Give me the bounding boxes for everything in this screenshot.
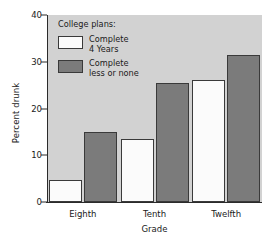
x-axis-title: Grade bbox=[47, 224, 262, 234]
legend-item: Complete4 Years bbox=[58, 35, 139, 54]
plot-area: 010203040 EighthTenthTwelfth College pla… bbox=[47, 15, 262, 202]
bar-chart: Percent drunk Grade 010203040 EighthTent… bbox=[0, 0, 268, 239]
bar bbox=[156, 83, 189, 202]
legend-title: College plans: bbox=[58, 20, 139, 29]
y-tick-label: 20 bbox=[31, 104, 47, 114]
bar bbox=[84, 132, 117, 202]
legend-entries: Complete4 YearsCompleteless or none bbox=[58, 35, 139, 78]
y-tick-label: 40 bbox=[31, 10, 47, 20]
bar bbox=[192, 80, 225, 202]
y-tick-label: 30 bbox=[31, 57, 47, 67]
legend-swatch bbox=[58, 60, 83, 73]
y-axis-title: Percent drunk bbox=[11, 63, 21, 163]
x-tick-label: Twelfth bbox=[211, 209, 241, 219]
legend-label: Completeless or none bbox=[89, 59, 139, 78]
x-tick-label: Eighth bbox=[69, 209, 96, 219]
y-tick-label: 0 bbox=[37, 197, 47, 207]
legend-label: Complete4 Years bbox=[89, 35, 128, 54]
legend-item: Completeless or none bbox=[58, 59, 139, 78]
legend-swatch bbox=[58, 36, 83, 49]
bar bbox=[121, 139, 154, 202]
x-axis-line bbox=[46, 202, 262, 203]
y-tick-label: 10 bbox=[31, 150, 47, 160]
y-axis-line bbox=[47, 15, 48, 202]
x-tick-label: Tenth bbox=[143, 209, 166, 219]
bar bbox=[49, 180, 82, 202]
legend: College plans: Complete4 YearsCompletele… bbox=[58, 20, 139, 83]
bar bbox=[227, 55, 260, 202]
